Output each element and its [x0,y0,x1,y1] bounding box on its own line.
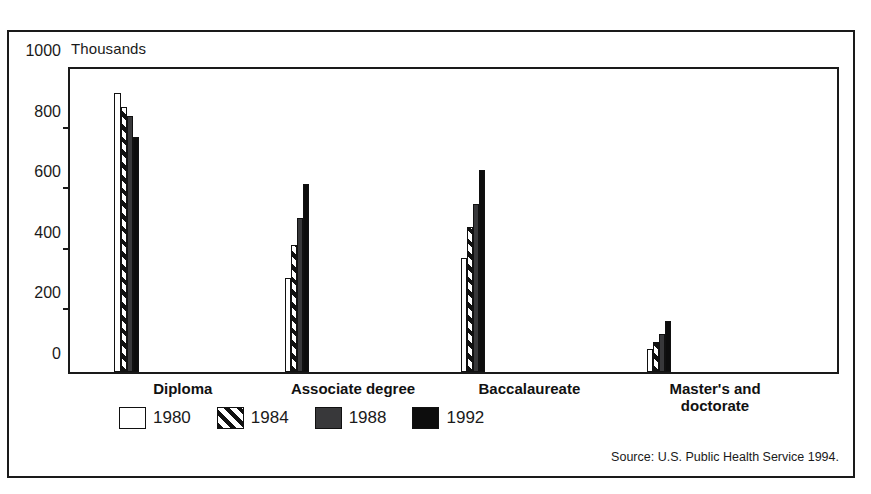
bar-associate-degree-1984 [291,245,297,372]
bar-baccalaureate-1984 [467,227,473,372]
bar-baccalaureate-1992 [479,170,485,372]
legend-label-1984: 1984 [251,408,289,428]
bar-associate-degree-1988 [297,218,303,372]
legend: 1980198419881992 [119,407,484,429]
bar-baccalaureate-1980 [461,258,467,372]
bar-master-s-and-doctorate-1984 [653,342,659,372]
legend-label-1992: 1992 [446,408,484,428]
bar-diploma-1988 [127,116,133,372]
bar-diploma-1980 [114,93,120,372]
x-category-label: Baccalaureate [479,380,581,397]
bar-diploma-1992 [133,137,139,372]
bar-master-s-and-doctorate-1980 [647,349,653,372]
legend-swatch-1988 [315,407,342,429]
plot-area: 02004006008001000DiplomaAssociate degree… [68,67,839,374]
y-tick-label-0: 0 [52,345,61,363]
bar-associate-degree-1980 [285,278,291,372]
y-tick-mark-200 [63,308,70,310]
y-tick-label-1000: 1000 [25,42,61,60]
bar-group: Associate degree [285,69,422,372]
bar-group: Master's anddoctorate [647,69,784,372]
y-tick-label-400: 400 [34,224,61,242]
legend-swatch-1992 [412,407,439,429]
bar-group: Baccalaureate [461,69,598,372]
figure-frame: Thousands 02004006008001000DiplomaAssoci… [7,30,855,478]
x-category-label: Master's anddoctorate [669,380,760,415]
source-note: Source: U.S. Public Health Service 1994. [611,450,839,464]
legend-item-1988: 1988 [315,407,387,429]
y-tick-mark-400 [63,248,70,250]
y-tick-label-600: 600 [34,163,61,181]
legend-label-1980: 1980 [153,408,191,428]
bar-master-s-and-doctorate-1988 [659,334,665,372]
bar-group: Diploma [114,69,251,372]
y-axis-units-label: Thousands [71,40,146,57]
bar-diploma-1984 [121,107,127,372]
y-tick-label-200: 200 [34,284,61,302]
y-tick-mark-600 [63,187,70,189]
legend-label-1988: 1988 [349,408,387,428]
bar-associate-degree-1992 [303,184,309,372]
y-tick-mark-800 [63,127,70,129]
legend-swatch-1984 [217,407,244,429]
legend-item-1980: 1980 [119,407,191,429]
plot-inner: 02004006008001000DiplomaAssociate degree… [70,69,837,372]
legend-item-1992: 1992 [412,407,484,429]
legend-swatch-1980 [119,407,146,429]
y-tick-label-800: 800 [34,103,61,121]
bar-master-s-and-doctorate-1992 [665,321,671,373]
bar-baccalaureate-1988 [473,204,479,372]
x-category-label: Diploma [153,380,212,397]
legend-item-1984: 1984 [217,407,289,429]
x-category-label: Associate degree [291,380,415,397]
